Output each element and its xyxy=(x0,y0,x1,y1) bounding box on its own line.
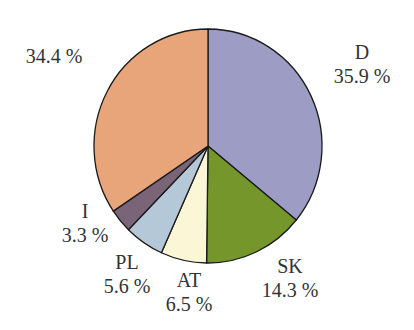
pie-slices xyxy=(94,29,322,263)
label-sk: SK 14.3 % xyxy=(262,254,319,302)
label-d-name: D xyxy=(334,40,391,64)
label-d: D 35.9 % xyxy=(334,40,391,88)
label-i-name: I xyxy=(62,199,109,223)
label-sk-name: SK xyxy=(262,254,319,278)
label-d-value: 35.9 % xyxy=(334,64,391,88)
label-sk-value: 14.3 % xyxy=(262,278,319,302)
label-at-value: 6.5 % xyxy=(166,292,213,316)
label-at-name: AT xyxy=(166,268,213,292)
label-other-value: 34.4 % xyxy=(26,44,83,68)
label-pl-name: PL xyxy=(104,250,151,274)
label-i-value: 3.3 % xyxy=(62,223,109,247)
label-pl: PL 5.6 % xyxy=(104,250,151,298)
label-at: AT 6.5 % xyxy=(166,268,213,316)
label-other: 34.4 % xyxy=(26,44,83,68)
label-pl-value: 5.6 % xyxy=(104,274,151,298)
label-i: I 3.3 % xyxy=(62,199,109,247)
